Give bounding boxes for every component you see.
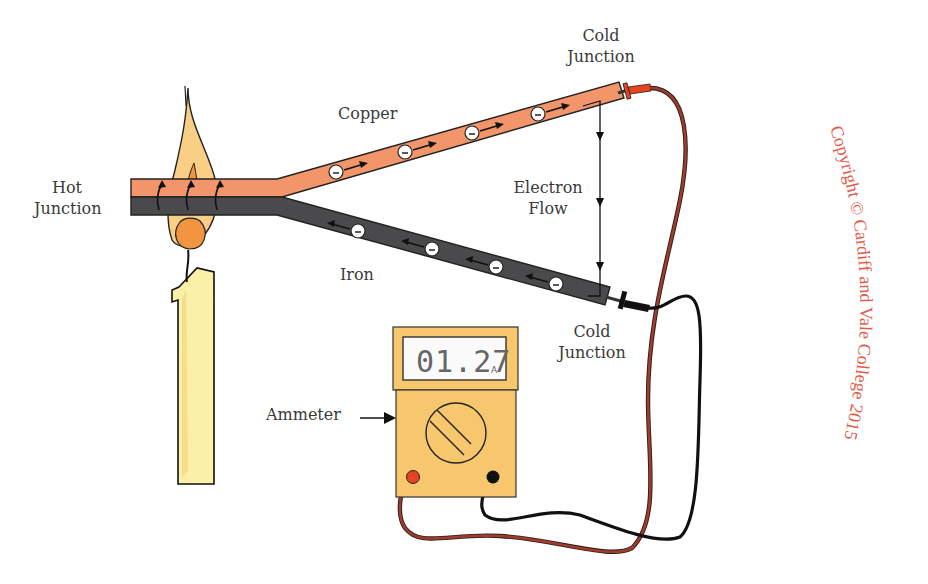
- cold-junction-bottom-label: Cold Junction: [547, 321, 637, 363]
- cold-junction-top-label: Cold Junction: [556, 25, 646, 67]
- flame-icon: [168, 86, 217, 249]
- cold-junction-top-line2: Junction: [556, 46, 646, 67]
- hot-junction-line2: Junction: [34, 198, 100, 219]
- ammeter-pointer-arrow: [360, 412, 396, 424]
- red-terminal: [407, 471, 420, 484]
- candle: [172, 250, 214, 484]
- electron-flow-label: Electron Flow: [508, 177, 588, 219]
- copyright-watermark: Copyright © Cardiff and Vale College 201…: [826, 123, 876, 442]
- electron-flow-line2: Flow: [508, 198, 588, 219]
- cold-junction-top-line1: Cold: [556, 25, 646, 46]
- copper-label: Copper: [338, 103, 397, 124]
- ammeter-label: Ammeter: [266, 404, 341, 425]
- cold-junction-bottom-line1: Cold: [547, 321, 637, 342]
- black-probe: [606, 291, 650, 312]
- ammeter-unit: A: [491, 365, 498, 375]
- cold-junction-bottom-line2: Junction: [547, 342, 637, 363]
- thermocouple-diagram: 01.27 A Copyright © Cardiff and Vale Col…: [0, 0, 928, 584]
- black-terminal: [487, 471, 500, 484]
- electron-flow-line1: Electron: [508, 177, 588, 198]
- hot-junction-label: Hot Junction: [34, 177, 100, 219]
- iron-label: Iron: [340, 264, 374, 285]
- hot-junction-line1: Hot: [34, 177, 100, 198]
